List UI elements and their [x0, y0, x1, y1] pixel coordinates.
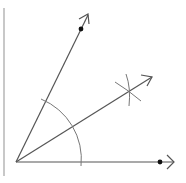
point-on-upper-ray [79, 27, 84, 32]
construction-arc [41, 99, 81, 166]
angle-bisector-diagram [0, 0, 186, 183]
point-on-horizontal-ray [158, 160, 163, 165]
